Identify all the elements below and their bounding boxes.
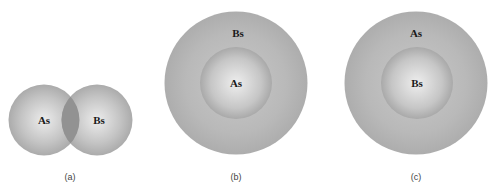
caption-a: (a) [65, 172, 76, 182]
label-b-outer: Bs [232, 27, 244, 39]
caption-b: (b) [231, 172, 242, 182]
diagram-a: As Bs (a) [9, 85, 133, 183]
diagram-c: As Bs (c) [345, 12, 488, 183]
label-b-inner: As [230, 77, 243, 89]
label-a-right: Bs [93, 114, 105, 126]
label-a-left: As [38, 114, 51, 126]
label-c-outer: As [410, 27, 423, 39]
diagram-b: Bs As (b) [165, 12, 308, 183]
sphere-diagrams: As Bs (a) Bs As (b) As Bs (c) [0, 0, 498, 191]
label-c-inner: Bs [411, 77, 423, 89]
caption-c: (c) [411, 172, 422, 182]
